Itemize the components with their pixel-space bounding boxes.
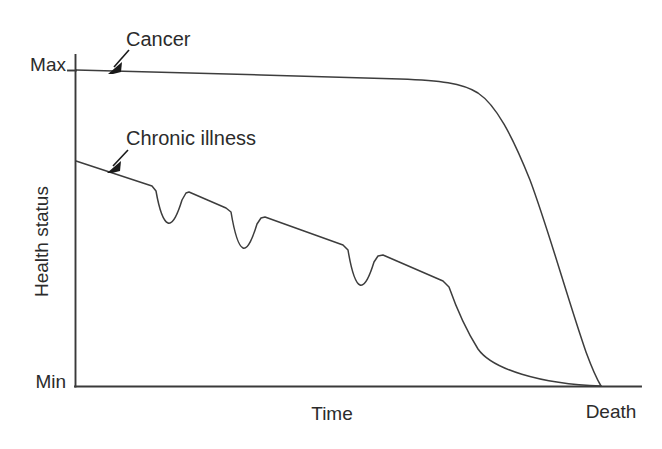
- y-axis-min-label: Min: [35, 371, 66, 392]
- x-axis-title: Time: [311, 403, 353, 424]
- cancer-arrow-head: [108, 62, 122, 74]
- chronic-illness-curve: [76, 161, 601, 386]
- chart-canvas: Cancer Chronic illness Max Min Health st…: [0, 0, 662, 449]
- cancer-series-label: Cancer: [126, 28, 191, 50]
- x-axis-death-label: Death: [586, 401, 637, 422]
- illness-trajectory-figure: Cancer Chronic illness Max Min Health st…: [0, 0, 662, 449]
- y-axis-title: Health status: [31, 186, 52, 297]
- chronic-illness-series-label: Chronic illness: [126, 127, 256, 149]
- y-axis-max-label: Max: [30, 54, 66, 75]
- cancer-curve: [76, 70, 601, 386]
